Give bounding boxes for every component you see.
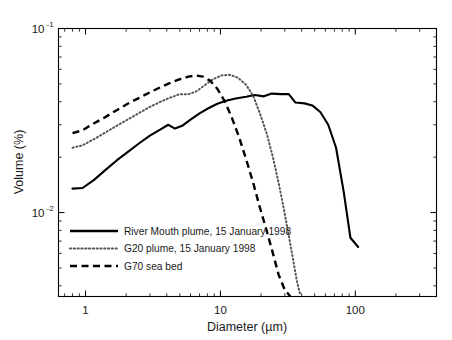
svg-text:-1: -1 xyxy=(47,20,55,29)
svg-text:10: 10 xyxy=(32,207,45,219)
chart-background xyxy=(0,0,452,340)
svg-text:10: 10 xyxy=(32,23,45,35)
x-tick-label-2: 100 xyxy=(346,304,365,316)
x-tick-label-0: 1 xyxy=(82,304,88,316)
svg-text:-2: -2 xyxy=(47,204,55,213)
x-axis-title: Diameter (µm) xyxy=(207,320,287,334)
legend-label-2: G70 sea bed xyxy=(124,261,183,272)
x-tick-label-1: 10 xyxy=(214,304,227,316)
figure-container: 110100 10-110-2 Diameter (µm) Volume (%)… xyxy=(0,0,452,340)
y-axis-title: Volume (%) xyxy=(12,130,26,195)
legend-label-1: G20 plume, 15 January 1998 xyxy=(124,243,256,254)
legend-label-0: River Mouth plume, 15 January 1998 xyxy=(124,226,291,237)
chart-canvas: 110100 10-110-2 Diameter (µm) Volume (%)… xyxy=(0,0,452,340)
